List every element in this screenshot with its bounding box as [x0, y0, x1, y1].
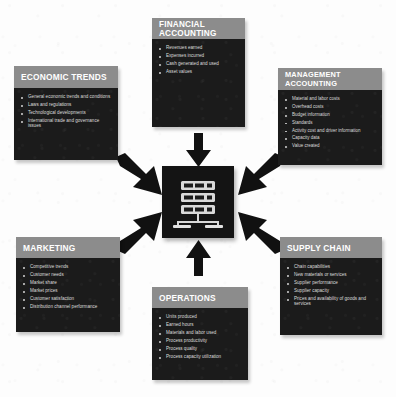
list-item: Standards: [285, 120, 376, 125]
node-management-accounting-bullets: Material and labor costs Overhead costs …: [285, 96, 376, 149]
node-marketing[interactable]: MARKETING Competitive trends Customer ne…: [16, 237, 120, 332]
node-financial-accounting-title: FINANCIAL ACCOUNTING: [159, 20, 238, 38]
node-supply-chain-title: SUPPLY CHAIN: [287, 243, 351, 253]
node-supply-chain[interactable]: SUPPLY CHAIN Chain capabilities New mate…: [280, 237, 382, 335]
arrow-from-operations: [186, 240, 211, 276]
list-item: Materials and labor used: [159, 330, 242, 335]
list-item: Technological developments: [21, 110, 112, 115]
list-item: General economic trends and conditions: [21, 94, 112, 99]
node-economic-trends-header: ECONOMIC TRENDS: [14, 66, 118, 88]
diagram-canvas: FINANCIAL ACCOUNTING Revenues earned Exp…: [0, 0, 396, 397]
list-item: Expenses incurred: [159, 53, 239, 58]
list-item: Competitive trends: [23, 264, 114, 269]
arrow-from-economic-trends: [116, 153, 162, 195]
database-server-icon: [162, 166, 234, 238]
node-operations[interactable]: OPERATIONS Units produced Earned hours M…: [152, 287, 248, 380]
node-supply-chain-bullets: Chain capabilities New materials or serv…: [287, 264, 376, 307]
node-operations-bullets: Units produced Earned hours Materials an…: [159, 314, 242, 359]
list-item: New materials or services: [287, 272, 376, 277]
node-marketing-bullets: Competitive trends Customer needs Market…: [23, 264, 114, 309]
list-item: Market share: [23, 280, 114, 285]
node-financial-accounting[interactable]: FINANCIAL ACCOUNTING Revenues earned Exp…: [152, 18, 245, 127]
list-item: Material and labor costs: [285, 96, 376, 101]
list-item: Distribution channel performance: [23, 304, 114, 309]
list-item: Budget information: [285, 112, 376, 117]
central-information-system: [162, 166, 234, 238]
list-item: Supplier performance: [287, 280, 376, 285]
list-item: Asset values: [159, 69, 239, 74]
node-marketing-title: MARKETING: [23, 243, 76, 253]
list-item: Activity cost and driver information: [285, 128, 376, 133]
list-item: Overhead costs: [285, 104, 376, 109]
list-item: Process productivity: [159, 338, 242, 343]
node-economic-trends[interactable]: ECONOMIC TRENDS General economic trends …: [14, 66, 118, 160]
node-management-accounting-header: MANAGEMENT ACCOUNTING: [278, 68, 382, 90]
list-item: Earned hours: [159, 322, 242, 327]
list-item: Laws and regulations: [21, 102, 112, 107]
node-supply-chain-header: SUPPLY CHAIN: [280, 237, 382, 258]
node-management-accounting-title: MANAGEMENT ACCOUNTING: [285, 70, 375, 88]
list-item: Process quality: [159, 346, 242, 351]
list-item: Customer needs: [23, 272, 114, 277]
list-item: Units produced: [159, 314, 242, 319]
node-financial-accounting-header: FINANCIAL ACCOUNTING: [152, 18, 245, 39]
list-item: Chain capabilities: [287, 264, 376, 269]
list-item: Prices and availability of goods and ser…: [287, 296, 376, 307]
node-economic-trends-title: ECONOMIC TRENDS: [21, 72, 107, 82]
node-economic-trends-body: General economic trends and conditions L…: [14, 88, 118, 160]
node-economic-trends-bullets: General economic trends and conditions L…: [21, 94, 112, 129]
node-operations-header: OPERATIONS: [152, 287, 248, 308]
arrow-from-supply-chain: [238, 212, 284, 254]
node-operations-body: Units produced Earned hours Materials an…: [152, 308, 248, 380]
node-marketing-body: Competitive trends Customer needs Market…: [16, 258, 120, 332]
list-item: Value created: [285, 143, 376, 148]
node-management-accounting[interactable]: MANAGEMENT ACCOUNTING Material and labor…: [278, 68, 382, 165]
list-item: Supplier capacity: [287, 288, 376, 293]
arrow-from-marketing: [116, 212, 162, 254]
node-financial-accounting-bullets: Revenues earned Expenses incurred Cash g…: [159, 45, 239, 74]
list-item: Market prices: [23, 288, 114, 293]
list-item: Customer satisfaction: [23, 296, 114, 301]
node-operations-title: OPERATIONS: [159, 293, 216, 303]
node-marketing-header: MARKETING: [16, 237, 120, 258]
list-item: Revenues earned: [159, 45, 239, 50]
list-item: International trade and governance issue…: [21, 118, 112, 129]
list-item: Capacity data: [285, 135, 376, 140]
arrow-from-financial-accounting: [186, 133, 211, 167]
node-supply-chain-body: Chain capabilities New materials or serv…: [280, 258, 382, 335]
list-item: Cash generated and used: [159, 61, 239, 66]
node-management-accounting-body: Material and labor costs Overhead costs …: [278, 90, 382, 165]
list-item: Process capacity utilization: [159, 354, 242, 359]
node-financial-accounting-body: Revenues earned Expenses incurred Cash g…: [152, 39, 245, 127]
